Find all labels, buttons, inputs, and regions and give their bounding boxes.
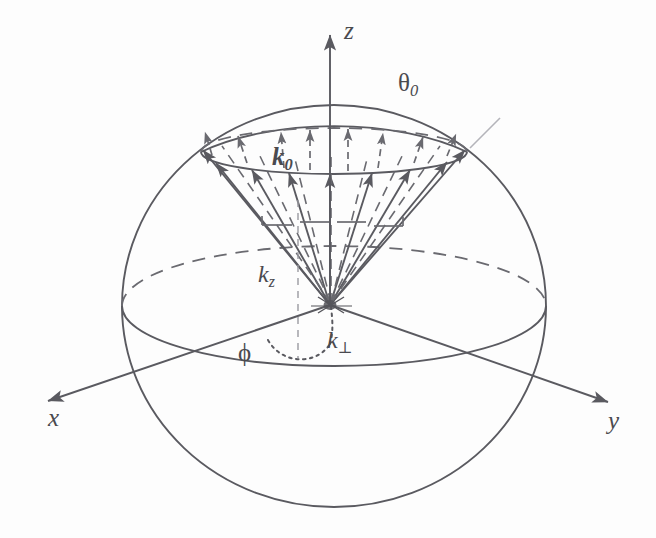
kz-arrow-7 xyxy=(414,137,423,163)
cone-rim-ellipse xyxy=(201,132,467,174)
kperp-subscript: ⊥ xyxy=(338,339,353,356)
kperp-label: k⊥ xyxy=(327,328,353,356)
k-ray-4 xyxy=(289,173,330,305)
cone-rim-front-solid xyxy=(201,152,467,174)
kz-label: kz xyxy=(258,262,275,290)
kz-arrow-2 xyxy=(238,136,247,163)
kz-subscript: z xyxy=(269,273,275,290)
kz-arrow-6 xyxy=(378,133,383,168)
dashed-ray-3 xyxy=(294,155,331,303)
y-axis-line xyxy=(330,305,608,402)
cap-top-arc xyxy=(201,126,467,152)
theta0-subscript: 0 xyxy=(410,81,418,100)
theta0-label: θ0 xyxy=(398,70,418,100)
theta0-glyph: θ xyxy=(398,69,410,96)
kz-arrow-1 xyxy=(205,132,212,155)
x-axis-line xyxy=(48,305,330,401)
k0-glyph: k xyxy=(272,143,285,170)
figure-canvas: z θ0 k0 kz k⊥ ϕ x y xyxy=(0,0,656,538)
k0-label: k0 xyxy=(272,144,293,174)
x-axis-label: x xyxy=(48,405,59,430)
theta0-leader-line xyxy=(470,118,500,148)
phi-label: ϕ xyxy=(238,340,251,365)
k-ray-7 xyxy=(330,170,410,305)
theta0-leader xyxy=(470,118,500,148)
k-ray-6 xyxy=(330,173,372,305)
z-axis-label: z xyxy=(344,18,354,43)
kz-glyph: k xyxy=(258,261,269,287)
k0-subscript: 0 xyxy=(285,155,293,174)
phi-arc-dotted xyxy=(268,340,330,359)
wavevector-sphere-diagram xyxy=(0,0,656,538)
kperp-glyph: k xyxy=(327,327,338,353)
y-axis-label: y xyxy=(608,408,619,433)
spherical-cap xyxy=(201,126,467,152)
